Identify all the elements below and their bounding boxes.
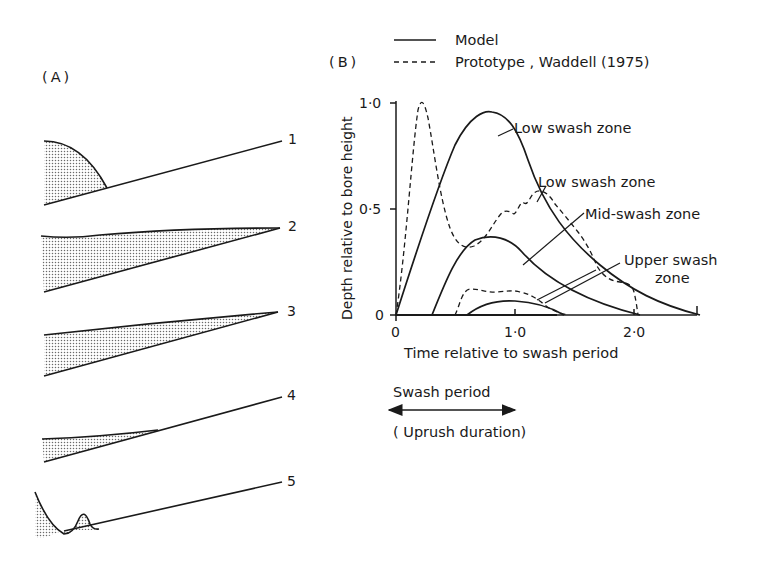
profile-2 [41, 228, 280, 292]
profile-2-number: 2 [288, 219, 297, 233]
legend-model-label: Model [455, 33, 499, 48]
annotation-low-swash-prototype: Low swash zone [538, 175, 655, 190]
swash-period-label: Swash period [393, 385, 491, 400]
profile-1-number: 1 [288, 132, 297, 146]
annotation-upper-swash-line1: Upper swash [624, 253, 718, 268]
annotation-low-swash-model: Low swash zone [514, 121, 631, 136]
profile-5 [35, 482, 282, 538]
profile-4-number: 4 [287, 388, 296, 402]
profile-1 [44, 141, 282, 205]
x-tick-1: 1·0 [504, 325, 526, 339]
y-tick-1: 1·0 [359, 96, 381, 110]
x-tick-2: 2·0 [623, 325, 645, 339]
y-axis-label: Depth relative to bore height [339, 116, 355, 320]
figure-canvas: Depth relative to bore height [0, 0, 767, 577]
legend-prototype-label: Prototype , Waddell (1975) [455, 55, 649, 70]
panel-a-label: (A) [42, 70, 72, 85]
annotation-upper-swash-line2: zone [655, 271, 690, 286]
profile-5-number: 5 [287, 474, 296, 488]
profile-3 [44, 312, 278, 376]
panel-a-profiles [35, 141, 282, 538]
profile-3-number: 3 [287, 304, 296, 318]
annotation-mid-swash: Mid-swash zone [585, 207, 700, 222]
profile-4 [42, 397, 282, 462]
y-tick-05: 0·5 [359, 202, 381, 216]
x-tick-0: 0 [391, 325, 400, 339]
x-axis-label: Time relative to swash period [404, 346, 618, 361]
panel-b-label: (B) [329, 55, 359, 70]
y-tick-0: 0 [375, 308, 384, 322]
swash-period-sublabel: ( Uprush duration) [393, 425, 526, 440]
